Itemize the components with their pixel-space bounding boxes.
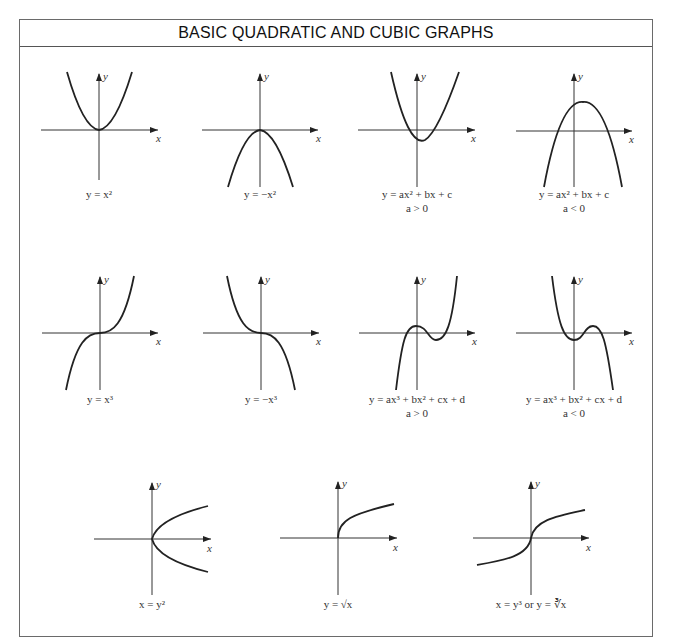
y-arrow-icon — [571, 73, 577, 81]
x-axis-label: x — [155, 132, 161, 144]
curve — [338, 504, 394, 538]
x-axis-label: x — [155, 335, 161, 347]
x-axis-label: x — [315, 132, 321, 144]
graph-y-eq-x2: x y — [41, 70, 161, 180]
caption-y-eq-neg-x2: y = −x² — [244, 188, 276, 201]
caption-cubic-a-pos-condition: a > 0 — [406, 407, 428, 420]
y-axis-label: y — [341, 477, 347, 489]
caption-quad-a-neg: y = ax² + bx + c — [539, 188, 609, 201]
y-arrow-icon — [571, 276, 577, 284]
x-axis-label: x — [585, 541, 591, 553]
y-axis-label: y — [420, 273, 426, 285]
graph-x-eq-y3: x y — [473, 477, 591, 595]
y-arrow-icon — [258, 276, 264, 284]
caption-y-eq-neg-x3: y = −x³ — [245, 393, 277, 406]
y-axis-label: y — [577, 70, 583, 82]
caption-cubic-a-pos: y = ax³ + bx² + cx + d — [369, 393, 465, 406]
x-axis-label: x — [628, 133, 634, 145]
caption-cubic-a-neg-condition: a < 0 — [563, 407, 585, 420]
y-axis-label: y — [264, 273, 270, 285]
caption-y-eq-x2: y = x² — [86, 188, 112, 201]
caption-x-eq-y2: x = y² — [139, 598, 165, 611]
x-axis-label: x — [470, 132, 476, 144]
caption-x-eq-y3: x = y³ or y = ∛x — [496, 598, 566, 611]
y-axis-label: y — [155, 478, 161, 490]
graph-y-eq-neg-x3: x y — [203, 273, 321, 390]
y-axis-label: y — [263, 70, 269, 82]
y-axis-label: y — [103, 273, 109, 285]
x-axis-label: x — [628, 335, 634, 347]
caption-quad-a-neg-condition: a < 0 — [563, 202, 585, 215]
y-axis-label: y — [420, 70, 426, 82]
x-axis-label: x — [206, 542, 212, 554]
graph-x-eq-y2: x y — [94, 478, 212, 595]
y-arrow-icon — [528, 481, 534, 489]
graph-y-eq-sqrt-x: x y — [280, 477, 398, 595]
graph-quad-a-pos: x y — [358, 70, 476, 187]
y-axis-label: y — [102, 70, 108, 82]
caption-y-eq-x3: y = x³ — [87, 393, 113, 406]
caption-quad-a-pos: y = ax² + bx + c — [382, 188, 452, 201]
curve — [544, 102, 622, 187]
graph-y-eq-neg-x2: x y — [202, 70, 321, 187]
x-axis-label: x — [315, 335, 321, 347]
y-axis-label: y — [534, 477, 540, 489]
graph-cubic-a-neg: x y — [516, 273, 634, 390]
y-axis-label: y — [577, 273, 583, 285]
y-arrow-icon — [149, 482, 155, 490]
caption-y-eq-sqrt-x: y = √x — [324, 598, 353, 611]
caption-quad-a-pos-condition: a > 0 — [406, 202, 428, 215]
graph-y-eq-x3: x y — [42, 273, 161, 390]
y-arrow-icon — [414, 73, 420, 81]
caption-cubic-a-neg: y = ax³ + bx² + cx + d — [526, 393, 622, 406]
y-arrow-icon — [335, 481, 341, 489]
graph-cubic-a-pos: x y — [359, 273, 477, 390]
y-arrow-icon — [257, 73, 263, 81]
graph-quad-a-neg: x y — [516, 70, 634, 187]
x-axis-label: x — [392, 541, 398, 553]
y-arrow-icon — [96, 73, 102, 81]
y-arrow-icon — [97, 276, 103, 284]
x-axis-label: x — [471, 335, 477, 347]
graphs-canvas: x y x y x y x y x y — [0, 0, 675, 643]
y-arrow-icon — [414, 276, 420, 284]
